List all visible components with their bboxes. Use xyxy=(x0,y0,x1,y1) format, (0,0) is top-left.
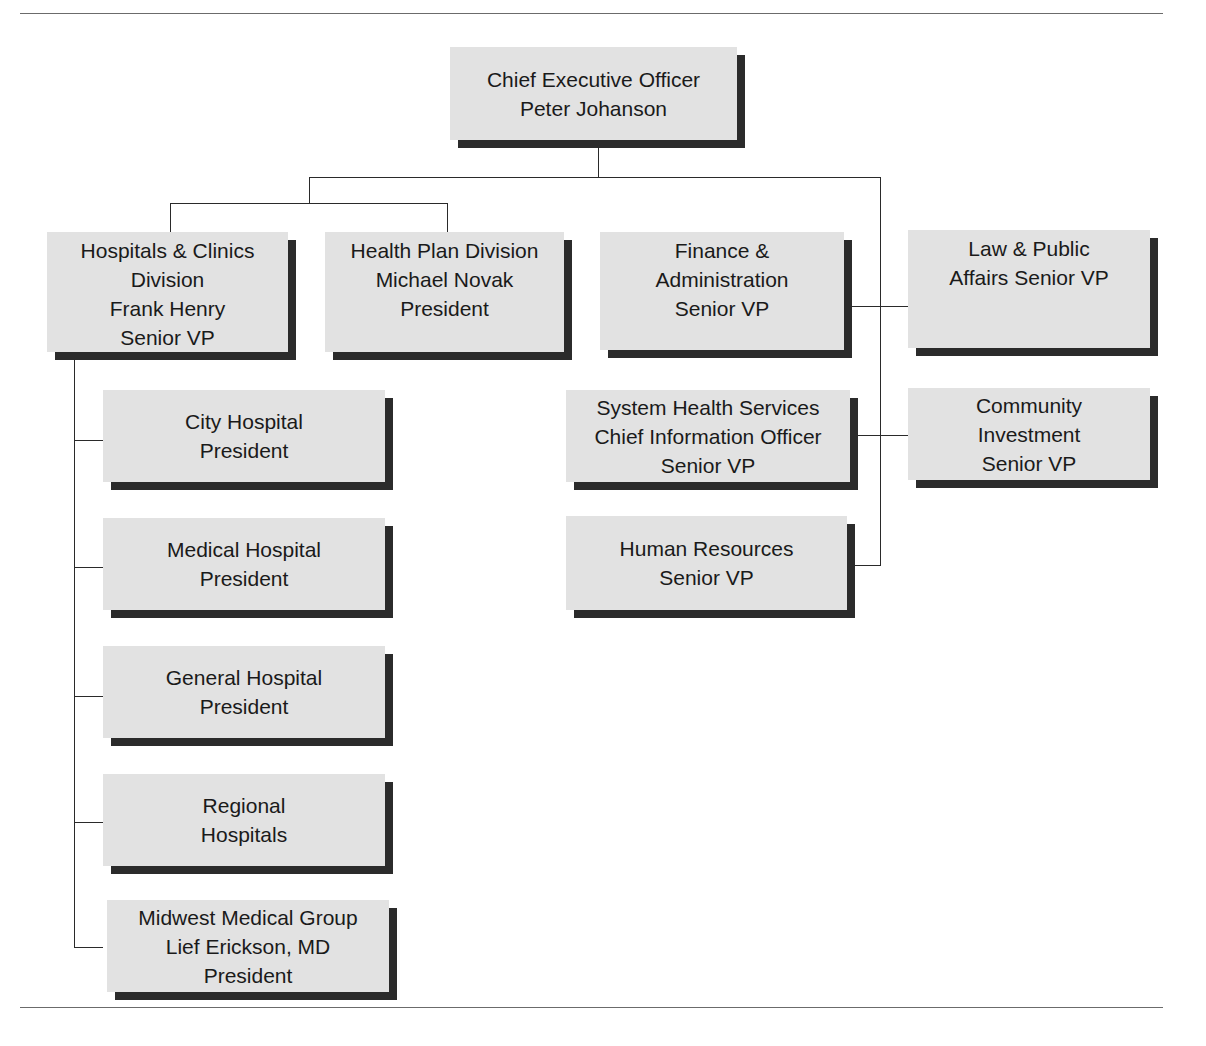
connector-city-hospital xyxy=(74,440,103,441)
connector-midwest-medical xyxy=(74,947,103,948)
node-line: Senior VP xyxy=(120,323,215,352)
node-line: President xyxy=(204,961,293,990)
node-line: City Hospital xyxy=(185,407,303,436)
node-law-public-affairs: Law & Public Affairs Senior VP xyxy=(908,230,1150,348)
top-rule xyxy=(20,13,1163,14)
node-line: General Hospital xyxy=(166,663,322,692)
node-city-hospital: City Hospital President xyxy=(103,390,385,482)
node-ceo: Chief Executive Officer Peter Johanson xyxy=(450,47,737,140)
node-line: Hospitals xyxy=(201,820,287,849)
node-line: President xyxy=(200,692,289,721)
connector-finance-law xyxy=(852,306,908,307)
node-line: Michael Novak xyxy=(376,265,514,294)
node-ceo-title: Chief Executive Officer xyxy=(487,65,700,94)
connector-hospital-units-spine xyxy=(74,360,75,948)
connector-staff-spine xyxy=(880,177,881,566)
node-regional-hospitals: Regional Hospitals xyxy=(103,774,385,866)
connector-healthplan-drop xyxy=(447,203,448,232)
node-line: President xyxy=(400,294,489,323)
node-line: Frank Henry xyxy=(110,294,226,323)
connector-hospitals-drop xyxy=(170,203,171,232)
node-general-hospital: General Hospital President xyxy=(103,646,385,738)
connector-medical-hospital xyxy=(74,567,103,568)
node-line: President xyxy=(200,436,289,465)
connector-general-hospital xyxy=(74,696,103,697)
bottom-rule xyxy=(20,1007,1163,1008)
node-line: Medical Hospital xyxy=(167,535,321,564)
node-community-investment: Community Investment Senior VP xyxy=(908,388,1150,480)
node-line: Community xyxy=(976,391,1082,420)
node-health-plan: Health Plan Division Michael Novak Presi… xyxy=(325,232,564,352)
connector-main-horizontal xyxy=(309,177,881,178)
node-line: Administration xyxy=(655,265,788,294)
node-line: Affairs Senior VP xyxy=(949,263,1109,292)
node-human-resources: Human Resources Senior VP xyxy=(566,516,847,610)
node-line: Finance & xyxy=(675,236,770,265)
node-line: Chief Information Officer xyxy=(594,422,821,451)
node-line: Senior VP xyxy=(661,451,756,480)
node-system-health: System Health Services Chief Information… xyxy=(566,390,850,482)
node-line: Lief Erickson, MD xyxy=(166,932,331,961)
node-line: Law & Public xyxy=(968,234,1089,263)
node-line: Senior VP xyxy=(675,294,770,323)
node-line: Human Resources xyxy=(620,534,794,563)
node-ceo-name: Peter Johanson xyxy=(520,94,667,123)
node-line: Midwest Medical Group xyxy=(138,903,357,932)
node-medical-hospital: Medical Hospital President xyxy=(103,518,385,610)
connector-division-horizontal xyxy=(170,203,448,204)
node-line: Senior VP xyxy=(659,563,754,592)
node-line: Division xyxy=(131,265,205,294)
connector-regional-hospitals xyxy=(74,822,103,823)
node-line: Senior VP xyxy=(982,449,1077,478)
connector-hr xyxy=(855,565,881,566)
connector-systemhealth-community xyxy=(858,435,908,436)
node-line: Regional xyxy=(203,791,286,820)
node-line: President xyxy=(200,564,289,593)
node-finance-admin: Finance & Administration Senior VP xyxy=(600,232,844,350)
node-line: System Health Services xyxy=(597,393,820,422)
node-line: Investment xyxy=(978,420,1081,449)
node-line: Health Plan Division xyxy=(351,236,539,265)
connector-ceo-stem xyxy=(598,140,599,178)
node-hospitals-clinics: Hospitals & Clinics Division Frank Henry… xyxy=(47,232,288,352)
connector-division-stem xyxy=(309,177,310,204)
node-midwest-medical-group: Midwest Medical Group Lief Erickson, MD … xyxy=(107,900,389,992)
node-line: Hospitals & Clinics xyxy=(81,236,255,265)
